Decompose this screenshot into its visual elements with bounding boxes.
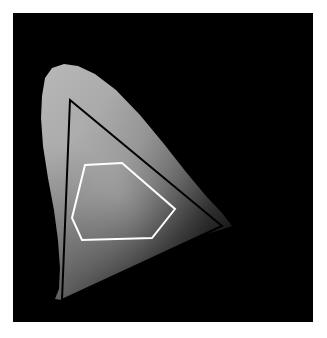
- chromaticity-plot[interactable]: [0, 0, 327, 338]
- figure-container: [0, 0, 327, 338]
